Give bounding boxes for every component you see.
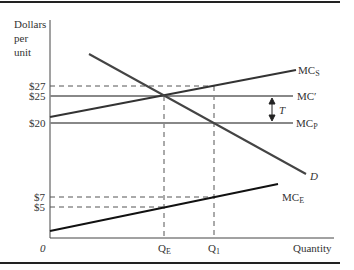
tax-label: T <box>279 104 286 116</box>
ytick-25: $25 <box>29 90 46 102</box>
mc-s-line <box>50 70 296 117</box>
label-mc-e: MCE <box>282 191 304 205</box>
label-mc-prime: MC′ <box>297 90 317 102</box>
ylabel-2: per <box>14 32 28 44</box>
tax-arrow <box>269 98 275 121</box>
xlabel: Quantity <box>293 242 332 254</box>
ylabel-3: unit <box>14 46 31 58</box>
demand-line <box>89 54 306 174</box>
xtick-qe: QE <box>158 242 171 256</box>
label-mc-s: MCS <box>298 64 320 78</box>
xtick-q1: Q1 <box>208 242 220 256</box>
label-mc-p: MCP <box>296 117 318 131</box>
ytick-5: $5 <box>34 201 46 213</box>
chart: T Dollars per unit $27 $25 $20 $7 $5 0 Q… <box>0 0 354 270</box>
origin-label: 0 <box>40 242 46 254</box>
ylabel-1: Dollars <box>14 18 46 30</box>
label-demand: D <box>309 170 318 182</box>
ytick-20: $20 <box>29 117 46 129</box>
